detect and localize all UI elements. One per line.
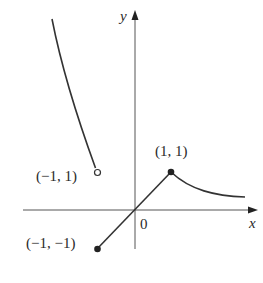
filled-point-marker-top: [168, 169, 175, 176]
origin-label: 0: [140, 216, 148, 232]
point-label-neg1-neg1: (−1, −1): [26, 235, 75, 252]
open-point-marker: [95, 170, 101, 176]
point-label-neg1-1: (−1, 1): [36, 168, 77, 185]
x-axis-arrow-icon: [248, 207, 258, 214]
filled-point-marker-bottom: [94, 246, 101, 253]
left-branch-curve: [52, 19, 96, 168]
y-axis-label: y: [118, 8, 127, 24]
point-label-1-1: (1, 1): [155, 143, 188, 160]
function-graph: y x 0 (1, 1) (−1, 1) (−1, −1): [0, 0, 263, 283]
y-axis-arrow-icon: [132, 10, 139, 20]
right-branch-curve: [171, 172, 245, 197]
x-axis-label: x: [248, 215, 256, 231]
